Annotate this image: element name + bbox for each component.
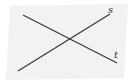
diagram: s t [0,0,130,83]
line-s-label: s [108,4,113,15]
diagram-canvas: s t [0,0,130,83]
